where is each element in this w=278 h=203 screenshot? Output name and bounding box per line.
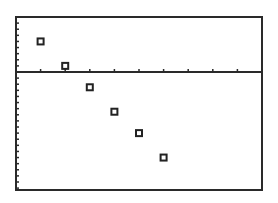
square-marker-icon bbox=[87, 84, 93, 90]
square-marker-icon bbox=[136, 130, 142, 136]
data-points bbox=[38, 38, 167, 160]
square-marker-icon bbox=[161, 155, 167, 161]
square-marker-icon bbox=[111, 109, 117, 115]
square-marker-icon bbox=[38, 38, 44, 44]
plot-frame bbox=[16, 17, 262, 190]
square-marker-icon bbox=[62, 63, 68, 69]
scatter-plot bbox=[0, 0, 278, 203]
